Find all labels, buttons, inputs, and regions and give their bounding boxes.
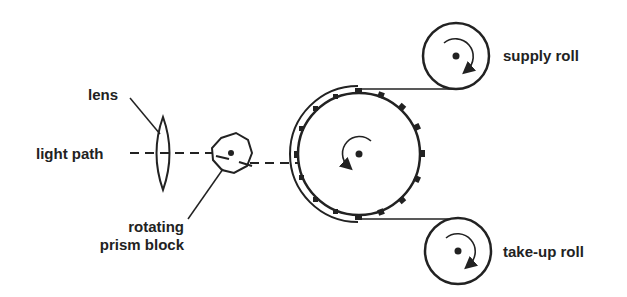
drum-rotation-arrow — [343, 137, 371, 166]
lens-leader — [130, 98, 160, 134]
label-supply-roll: supply roll — [503, 47, 579, 64]
supply-roll — [423, 23, 489, 89]
label-light-path: light path — [36, 145, 104, 162]
label-takeup-roll: take-up roll — [503, 243, 584, 260]
label-prism-line2: prism block — [70, 236, 184, 253]
diagram-canvas: lens light path rotating prism block sup… — [0, 0, 627, 297]
prism-center-dot — [228, 150, 234, 156]
label-lens: lens — [88, 86, 118, 103]
prism-leader — [188, 169, 223, 219]
label-prism-line1: rotating — [100, 218, 184, 235]
takeup-roll — [425, 218, 491, 284]
sprocket-drum — [290, 86, 425, 222]
